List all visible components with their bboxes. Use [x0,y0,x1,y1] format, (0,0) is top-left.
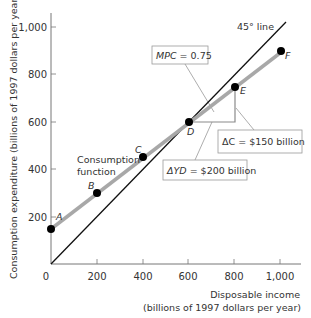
svg-text:ΔYD = $200 billion: ΔYD = $200 billion [166,165,256,176]
y-tick-label: 800 [28,69,47,80]
x-axis-label: Disposable income [210,289,300,300]
x-tick-label: 400 [133,271,152,282]
svg-text:ΔC = $150 billion: ΔC = $150 billion [222,136,305,147]
consumption-function-chart: 0 200 400 600 800 1,000 200 400 600 800 … [0,0,311,318]
mpc-annotation: MPC = 0.75 [152,46,212,64]
x-tick-label: 800 [224,271,243,282]
consumption-function-label-2: function [77,166,116,177]
x-tick-label: 600 [178,271,197,282]
x-axis-label-sub: (billions of 1997 dollars per year) [143,302,301,313]
point-label-e: E [240,85,246,96]
y-tick-label: 600 [28,117,47,128]
y-tick-label: 200 [28,212,47,223]
delta-c-annotation: ΔC = $150 billion [218,130,305,153]
point-label-d: D [187,126,194,137]
point-a [47,225,55,233]
y-ticks [51,27,56,217]
x-tick-label: 0 [43,271,49,282]
y-tick-label: 400 [28,164,47,175]
svg-text:MPC = 0.75: MPC = 0.75 [156,50,212,61]
y-axis-label: Consumption expenditure (billions of 199… [8,0,19,279]
point-label-b: B [88,180,95,191]
point-d [185,118,193,126]
forty-five-line-label: 45° line [237,21,274,32]
x-tick-label: 200 [87,271,106,282]
delta-yd-annotation: ΔYD = $200 billion [163,160,256,180]
point-label-f: F [285,50,291,61]
point-label-a: A [55,211,63,222]
point-e [231,83,239,91]
y-tick-label: 1,000 [18,22,47,33]
consumption-function-label: Consumption [77,154,140,165]
point-f [277,47,285,55]
x-tick-label: 1,000 [266,271,295,282]
x-ticks [97,259,280,264]
